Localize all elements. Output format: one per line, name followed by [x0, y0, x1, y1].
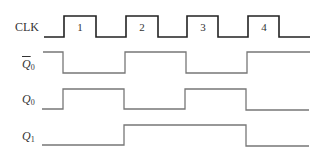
clk-waveform [44, 16, 310, 37]
pulse-label-1: 1 [77, 21, 83, 33]
pulse-label-3: 3 [200, 21, 206, 33]
pulse-label-4: 4 [261, 21, 267, 33]
q0-bar-waveform [43, 52, 310, 73]
timing-diagram: CLK Q0 Q0 Q1 1 2 3 4 [0, 0, 324, 154]
waveforms: 1 2 3 4 [0, 0, 324, 154]
q0-waveform [42, 89, 309, 110]
q1-waveform [42, 125, 309, 146]
pulse-label-2: 2 [139, 21, 145, 33]
